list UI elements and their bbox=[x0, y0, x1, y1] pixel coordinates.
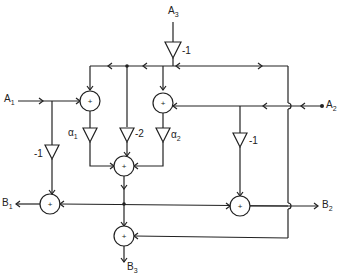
output-b1-label: B1 bbox=[2, 198, 13, 210]
gain-a3-label: -1 bbox=[182, 46, 191, 56]
input-a2-label: A2 bbox=[326, 100, 337, 112]
input-a1-label: A1 bbox=[4, 94, 15, 106]
summer-b1-sign: + bbox=[48, 200, 53, 209]
gain-alpha2-label: α2 bbox=[171, 130, 181, 142]
signal-flow-diagram: + + + + + + A3 A1 A2 B1 B2 B3 -1 α1 -2 α… bbox=[0, 0, 339, 277]
summer-2-sign: + bbox=[161, 99, 166, 108]
gain-minus2-label: -2 bbox=[135, 129, 144, 139]
summer-1-sign: + bbox=[88, 97, 93, 106]
summer-b2-sign: + bbox=[238, 202, 243, 211]
gain-alpha1-label: α1 bbox=[68, 128, 78, 140]
gain-triangle-a3 bbox=[165, 42, 181, 58]
diagram-wires bbox=[0, 0, 339, 277]
summer-b3-sign: + bbox=[122, 232, 127, 241]
summer-center-sign: + bbox=[122, 162, 127, 171]
gain-a2-label: -1 bbox=[249, 136, 258, 146]
gain-a1-label: -1 bbox=[34, 149, 43, 159]
output-b3-label: B3 bbox=[127, 262, 138, 274]
input-a3-label: A3 bbox=[168, 6, 179, 18]
output-b2-label: B2 bbox=[322, 200, 333, 212]
